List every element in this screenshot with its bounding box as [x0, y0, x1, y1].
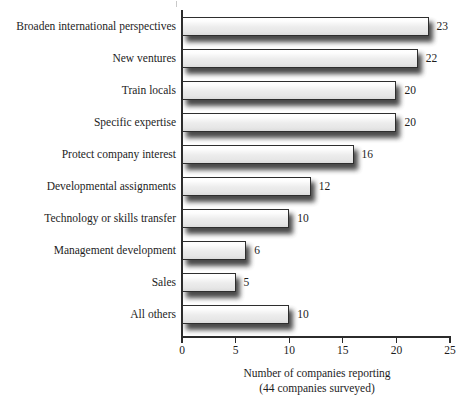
bar-body: [182, 17, 429, 36]
bar-row: Technology or skills transfer10: [0, 208, 463, 240]
x-tick-label: 15: [328, 343, 358, 357]
plot-area: Broaden international perspectives23New …: [0, 0, 463, 345]
bar-body: [182, 145, 354, 164]
bar-row: Developmental assignments12: [0, 176, 463, 208]
x-tick-label: 20: [381, 343, 411, 357]
bar-category-label: Developmental assignments: [0, 179, 176, 194]
bar-category-label: Technology or skills transfer: [0, 211, 176, 226]
x-axis-title-line2: (44 companies surveyed): [182, 381, 452, 396]
bar-category-label: Specific expertise: [0, 115, 176, 130]
bar-body: [182, 81, 396, 100]
bar-row: All others10: [0, 304, 463, 336]
x-tick-label: 0: [167, 343, 197, 357]
bar-value-label: 10: [297, 307, 309, 322]
bar-category-label: All others: [0, 307, 176, 322]
x-tick-mark: [235, 336, 236, 343]
bar-body: [182, 177, 311, 196]
bar-value-label: 6: [254, 243, 260, 258]
bar-category-label: Broaden international perspectives: [0, 19, 176, 34]
x-axis-title-line1: Number of companies reporting: [182, 366, 452, 381]
x-tick-label: 10: [274, 343, 304, 357]
bar-row: Protect company interest16: [0, 144, 463, 176]
bar-value-label: 16: [362, 147, 374, 162]
bar-value-label: 20: [404, 115, 416, 130]
bar: [182, 81, 396, 107]
x-tick-label: 25: [435, 343, 463, 357]
x-tick-mark: [181, 336, 182, 343]
bar-row: Sales5: [0, 272, 463, 304]
bar-body: [182, 49, 418, 68]
bar-body: [182, 305, 289, 324]
bar-chart: Broaden international perspectives23New …: [0, 0, 463, 399]
bar-category-label: New ventures: [0, 51, 176, 66]
bar: [182, 273, 236, 299]
bar-row: Management development6: [0, 240, 463, 272]
bar-body: [182, 241, 246, 260]
bar: [182, 305, 289, 331]
bar-body: [182, 273, 236, 292]
bar: [182, 49, 418, 75]
x-tick-mark: [396, 336, 397, 343]
bar-category-label: Protect company interest: [0, 147, 176, 162]
bar-category-label: Sales: [0, 275, 176, 290]
bar-row: Specific expertise20: [0, 112, 463, 144]
bar-category-label: Train locals: [0, 83, 176, 98]
bar-row: Train locals20: [0, 80, 463, 112]
x-axis-title: Number of companies reporting (44 compan…: [182, 366, 452, 395]
bar: [182, 113, 396, 139]
bar-value-label: 12: [319, 179, 331, 194]
bar-body: [182, 209, 289, 228]
bar: [182, 241, 246, 267]
bar-category-label: Management development: [0, 243, 176, 258]
bar-value-label: 20: [404, 83, 416, 98]
x-tick-mark: [342, 336, 343, 343]
bar-row: New ventures22: [0, 48, 463, 80]
bar-value-label: 22: [426, 51, 438, 66]
bar-value-label: 23: [437, 19, 449, 34]
x-tick-label: 5: [221, 343, 251, 357]
bar: [182, 17, 429, 43]
bar-value-label: 5: [244, 275, 250, 290]
bar-body: [182, 113, 396, 132]
bar-value-label: 10: [297, 211, 309, 226]
x-tick-mark: [449, 336, 450, 343]
x-tick-mark: [289, 336, 290, 343]
bar: [182, 177, 311, 203]
bar-row: Broaden international perspectives23: [0, 16, 463, 48]
bar: [182, 145, 354, 171]
x-axis-line: [181, 336, 451, 338]
bar: [182, 209, 289, 235]
